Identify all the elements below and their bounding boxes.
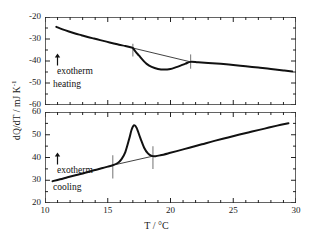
up-arrow-icon [53, 53, 62, 66]
x-tick-label: 25 [221, 205, 245, 215]
panel-heating: -20-30-40-50-60 exotherm heating [45, 17, 296, 105]
y-tick-label: 50 [13, 129, 41, 139]
panel-cooling: 6050403020 exotherm cooling [45, 112, 296, 203]
cooling-exotherm-annotation: exotherm [53, 152, 93, 175]
cooling-exotherm-label: exotherm [57, 165, 93, 175]
y-tick-label: -40 [13, 55, 41, 65]
x-tick-label: 20 [159, 205, 183, 215]
dsc-figure: dQ/dT / mJ K-1 -20-30-40-50-60 exotherm … [0, 0, 313, 239]
heating-mode-label: heating [53, 79, 81, 89]
y-tick-label: -50 [13, 77, 41, 87]
x-axis-label: T / °C [0, 220, 313, 231]
y-tick-label: 40 [13, 152, 41, 162]
x-tick-label: 30 [284, 205, 308, 215]
x-tick-label: 10 [33, 205, 57, 215]
y-tick-label: -20 [13, 11, 41, 21]
x-tick-label: 15 [96, 205, 120, 215]
y-tick-label: 30 [13, 174, 41, 184]
heating-exotherm-label: exotherm [57, 66, 93, 76]
up-arrow-icon [53, 152, 62, 165]
y-tick-label: 60 [13, 106, 41, 116]
y-tick-label: -30 [13, 33, 41, 43]
heating-exotherm-annotation: exotherm [53, 53, 93, 76]
cooling-mode-label: cooling [53, 182, 82, 192]
